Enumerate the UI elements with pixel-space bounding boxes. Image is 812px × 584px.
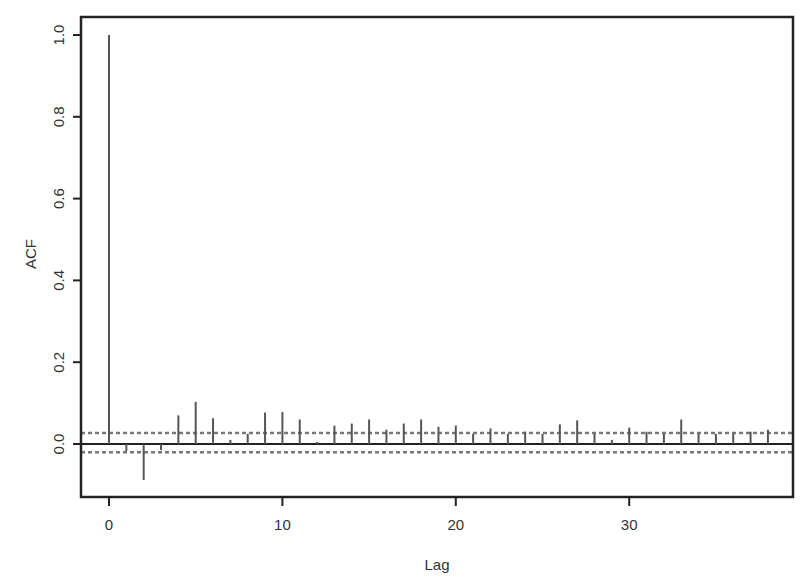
x-axis-label: Lag: [424, 556, 449, 573]
y-tick-label: 0.4: [50, 270, 67, 291]
y-tick-label: 0.2: [50, 352, 67, 373]
y-tick-label: 0.6: [50, 188, 67, 209]
y-axis-label: ACF: [22, 239, 39, 269]
y-tick-label: 0.8: [50, 106, 67, 127]
y-tick-label: 0.0: [50, 434, 67, 455]
plot-frame: [81, 17, 793, 497]
y-tick-label: 1.0: [50, 25, 67, 46]
x-tick-label: 20: [447, 516, 464, 533]
x-tick-label: 10: [274, 516, 291, 533]
y-axis: 0.00.20.40.60.81.0: [50, 25, 81, 455]
x-axis: 0102030: [105, 497, 638, 533]
x-tick-label: 30: [621, 516, 638, 533]
x-tick-label: 0: [105, 516, 113, 533]
acf-chart: 0.00.20.40.60.81.0 0102030 Lag ACF: [0, 0, 812, 584]
plot-area: [81, 35, 793, 480]
